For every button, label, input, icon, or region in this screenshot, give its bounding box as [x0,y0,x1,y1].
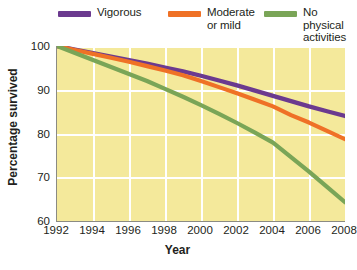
x-axis-tick-label: 1996 [115,224,141,236]
legend-item-no-physical-activities: No physical activities [264,6,350,44]
plot-area [56,46,345,222]
x-axis-tick-label: 2004 [259,224,285,236]
legend-swatch-no-physical-activities [264,11,297,17]
gridline-vertical [345,46,347,221]
x-axis-tick-label: 2006 [295,224,321,236]
x-axis-title: Year [0,243,355,257]
x-axis-ticks: 199219941996199820002002200420062008 [0,224,355,240]
y-axis-tick-label: 100 [31,40,50,52]
series-lines [57,46,345,221]
legend-swatch-moderate [168,11,201,17]
series-line-moderate-or-mild [57,46,345,139]
legend-label-no-physical-activities: No physical activities [303,6,350,44]
legend-swatch-vigorous [58,11,91,17]
legend-label-moderate: Moderate or mild [207,6,255,31]
y-axis-tick-label: 90 [37,84,50,96]
series-line-no-physical-activities [57,46,345,202]
x-axis-tick-label: 1994 [79,224,105,236]
x-axis-tick-label: 1992 [43,224,69,236]
x-axis-tick-label: 2000 [187,224,213,236]
legend-item-vigorous: Vigorous [58,6,141,19]
y-axis-tick-label: 70 [37,171,50,183]
legend-item-moderate: Moderate or mild [168,6,255,31]
chart-legend: Vigorous Moderate or mild No physical ac… [58,6,350,40]
x-axis-tick-label: 2002 [223,224,249,236]
x-axis-tick-label: 1998 [151,224,177,236]
y-axis-tick-label: 80 [37,128,50,140]
x-axis-tick-label: 2008 [331,224,357,236]
legend-label-vigorous: Vigorous [97,6,141,19]
y-axis-title: Percentage survived [6,47,20,207]
